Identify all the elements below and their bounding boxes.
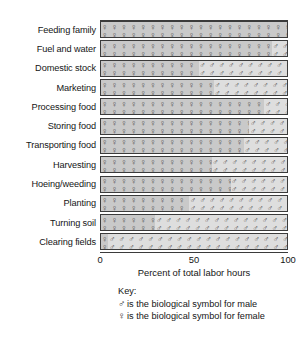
x-tick-label: 0 [97, 254, 102, 266]
bar-row-label: Domestic stock [0, 63, 100, 73]
female-symbol-icon: ♀ ♀ ♀ ♀ ♀ ♀ ♀ ♀ ♀ ♀ ♀ [102, 204, 192, 211]
chart-key: Key: ♂is the biological symbol for male … [118, 285, 308, 323]
bar-row: Transporting food♀ ♀ ♀ ♀ ♀ ♀ ♀ ♀ ♀ ♀ ♀ ♀… [0, 136, 308, 155]
stacked-bar: ♀ ♀ ♀ ♀ ♀ ♀ ♀ ♀ ♀ ♀ ♀♀ ♀ ♀ ♀ ♀ ♀ ♀ ♀ ♀ ♀… [100, 195, 288, 212]
bar-segment-male: ♂ ♂ ♂ ♂ ♂ ♂ ♂ ♂ ♂ ♂ ♂ ♂ ♂ ♂ ♂ ♂ ♂ ♂ ♂ ♂ … [108, 234, 287, 249]
bar-segment-female: ♀ ♀ ♀ ♀ ♀ ♀ ♀♀ ♀ ♀ ♀ ♀ ♀ ♀ [101, 215, 157, 230]
x-axis-ticks: 050100 [100, 254, 288, 268]
bar-segment-female: ♀ ♀ ♀ ♀ ♀ ♀ ♀ ♀ ♀ ♀ ♀ ♀ ♀ ♀ ♀ ♀ ♀ ♀ ♀♀ ♀… [101, 119, 251, 134]
stacked-bar: ♀ ♀ ♀ ♀ ♀ ♀ ♀ ♀ ♀ ♀ ♀ ♀ ♀ ♀ ♀ ♀ ♀ ♀ ♀ ♀ … [100, 21, 288, 38]
stacked-bar: ♀ ♀ ♀ ♀ ♀ ♀ ♀ ♀ ♀ ♀ ♀ ♀ ♀ ♀ ♀ ♀ ♀ ♀ ♀ ♀ … [100, 40, 288, 57]
bar-segment-male: ♂ ♂ ♂ ♂ ♂ ♂ ♂♂ ♂ ♂ ♂ ♂ ♂ ♂ [231, 177, 287, 192]
bar-segment-female: ♀ ♀ ♀ ♀ ♀ ♀ ♀ ♀ ♀ ♀ ♀ ♀♀ ♀ ♀ ♀ ♀ ♀ ♀ ♀ ♀… [101, 61, 201, 76]
plot-area: Feeding family♀ ♀ ♀ ♀ ♀ ♀ ♀ ♀ ♀ ♀ ♀ ♀ ♀ … [0, 0, 308, 272]
bar-row-label: Hoeing/weeding [0, 179, 100, 189]
bar-row: Clearing fields♀♀♂ ♂ ♂ ♂ ♂ ♂ ♂ ♂ ♂ ♂ ♂ ♂… [0, 232, 308, 251]
female-symbol-icon: ♀ ♀ ♀ ♀ ♀ ♀ ♀ ♀ ♀ ♀ ♀ ♀ ♀ ♀ [102, 166, 214, 173]
stacked-bar: ♀♀♂ ♂ ♂ ♂ ♂ ♂ ♂ ♂ ♂ ♂ ♂ ♂ ♂ ♂ ♂ ♂ ♂ ♂ ♂ … [100, 233, 288, 250]
male-symbol-icon: ♂ [118, 298, 127, 310]
key-line-female: ♀is the biological symbol for female [118, 310, 308, 322]
bar-segment-male: ♂ ♂ ♂ ♂ ♂ ♂ ♂ ♂ ♂ ♂ ♂ ♂♂ ♂ ♂ ♂ ♂ ♂ ♂ ♂ ♂… [189, 196, 287, 211]
bar-row: Processing food♀ ♀ ♀ ♀ ♀ ♀ ♀ ♀ ♀ ♀ ♀ ♀ ♀… [0, 97, 308, 116]
bar-row-label: Transporting food [0, 140, 100, 150]
male-symbol-icon: ♂ ♂ ♂ ♂ ♂ ♂ ♂ [231, 185, 287, 192]
bar-row-label: Planting [0, 198, 100, 208]
male-symbol-icon: ♂ ♂ ♂ ♂ ♂ [244, 146, 287, 153]
bar-row-label: Fuel and water [0, 44, 100, 54]
female-symbol-icon: ♀ ♀ ♀ ♀ ♀ ♀ ♀ ♀ ♀ ♀ ♀ ♀ ♀ ♀ ♀ ♀ ♀ ♀ ♀ ♀ … [102, 31, 289, 38]
female-symbol-icon: ♀ ♀ ♀ ♀ ♀ ♀ ♀ ♀ ♀ ♀ ♀ ♀ ♀ ♀ ♀ ♀ [102, 185, 233, 192]
bar-row: Feeding family♀ ♀ ♀ ♀ ♀ ♀ ♀ ♀ ♀ ♀ ♀ ♀ ♀ … [0, 20, 308, 39]
female-symbol-icon: ♀ ♀ ♀ ♀ ♀ ♀ ♀ ♀ ♀ ♀ ♀ ♀ ♀ ♀ ♀ ♀ ♀ ♀ ♀ ♀ … [102, 50, 274, 57]
bar-segment-male: ♂ ♂♂ ♂ [272, 41, 287, 56]
bar-segment-male: ♂ ♂ ♂ ♂ ♂ ♂ ♂ ♂ ♂♂ ♂ ♂ ♂ ♂ ♂ ♂ ♂ ♂ [212, 157, 287, 172]
male-symbol-icon: ♂ ♂ [272, 50, 287, 57]
bar-row-label: Harvesting [0, 160, 100, 170]
female-symbol-icon: ♀ ♀ ♀ ♀ ♀ ♀ ♀ ♀ ♀ ♀ ♀ ♀ [102, 69, 201, 76]
bar-segment-female: ♀ ♀ ♀ ♀ ♀ ♀ ♀ ♀ ♀ ♀ ♀ ♀ ♀ ♀ ♀ ♀ ♀ ♀ ♀ ♀ … [101, 99, 266, 114]
bar-row: Fuel and water♀ ♀ ♀ ♀ ♀ ♀ ♀ ♀ ♀ ♀ ♀ ♀ ♀ … [0, 39, 308, 58]
bar-rows: Feeding family♀ ♀ ♀ ♀ ♀ ♀ ♀ ♀ ♀ ♀ ♀ ♀ ♀ … [0, 20, 308, 252]
bar-segment-male: ♂ ♂ ♂ ♂ ♂ ♂ ♂ ♂ ♂ ♂ ♂ ♂ ♂ ♂ ♂ ♂♂ ♂ ♂ ♂ ♂… [155, 215, 287, 230]
bar-segment-female: ♀ ♀ ♀ ♀ ♀ ♀ ♀ ♀ ♀ ♀ ♀ ♀ ♀ ♀♀ ♀ ♀ ♀ ♀ ♀ ♀… [101, 80, 216, 95]
female-symbol-icon: ♀ ♀ ♀ ♀ ♀ ♀ ♀ [102, 224, 158, 231]
bar-row-label: Clearing fields [0, 237, 100, 247]
male-symbol-icon: ♂ ♂ ♂ ♂ ♂ [250, 127, 287, 134]
female-symbol-icon: ♀ ♀ ♀ ♀ ♀ ♀ ♀ ♀ ♀ ♀ ♀ ♀ ♀ ♀ ♀ ♀ ♀ ♀ ♀ ♀ … [102, 108, 267, 115]
stacked-bar: ♀ ♀ ♀ ♀ ♀ ♀ ♀ ♀ ♀ ♀ ♀ ♀ ♀ ♀ ♀ ♀♀ ♀ ♀ ♀ ♀… [100, 176, 288, 193]
bar-segment-male: ♂ ♂ ♂ ♂ ♂ ♂ ♂ ♂ ♂ ♂ ♂♂ ♂ ♂ ♂ ♂ ♂ ♂ ♂ ♂ ♂… [199, 61, 287, 76]
female-symbol-icon: ♀ ♀ ♀ ♀ ♀ ♀ ♀ ♀ ♀ ♀ ♀ ♀ ♀ ♀ ♀ ♀ ♀ ♀ [102, 146, 246, 153]
bar-row-label: Marketing [0, 83, 100, 93]
female-symbol-icon: ♀ [118, 310, 127, 322]
bar-row-label: Feeding family [0, 25, 100, 35]
bar-segment-female: ♀ ♀ ♀ ♀ ♀ ♀ ♀ ♀ ♀ ♀ ♀ ♀ ♀ ♀♀ ♀ ♀ ♀ ♀ ♀ ♀… [101, 157, 214, 172]
bar-row: Marketing♀ ♀ ♀ ♀ ♀ ♀ ♀ ♀ ♀ ♀ ♀ ♀ ♀ ♀♀ ♀ … [0, 78, 308, 97]
bar-segment-female: ♀ ♀ ♀ ♀ ♀ ♀ ♀ ♀ ♀ ♀ ♀ ♀ ♀ ♀ ♀ ♀ ♀ ♀♀ ♀ ♀… [101, 138, 246, 153]
x-tick-label: 50 [189, 254, 199, 266]
stacked-bar: ♀ ♀ ♀ ♀ ♀ ♀ ♀♀ ♀ ♀ ♀ ♀ ♀ ♀♂ ♂ ♂ ♂ ♂ ♂ ♂ … [100, 214, 288, 231]
bar-segment-female: ♀ ♀ ♀ ♀ ♀ ♀ ♀ ♀ ♀ ♀ ♀♀ ♀ ♀ ♀ ♀ ♀ ♀ ♀ ♀ ♀… [101, 196, 191, 211]
stacked-bar: ♀ ♀ ♀ ♀ ♀ ♀ ♀ ♀ ♀ ♀ ♀ ♀♀ ♀ ♀ ♀ ♀ ♀ ♀ ♀ ♀… [100, 60, 288, 77]
stacked-bar: ♀ ♀ ♀ ♀ ♀ ♀ ♀ ♀ ♀ ♀ ♀ ♀ ♀ ♀♀ ♀ ♀ ♀ ♀ ♀ ♀… [100, 156, 288, 173]
bar-row-label: Storing food [0, 121, 100, 131]
bar-row: Storing food♀ ♀ ♀ ♀ ♀ ♀ ♀ ♀ ♀ ♀ ♀ ♀ ♀ ♀ … [0, 116, 308, 135]
male-symbol-icon: ♂ ♂ ♂ [265, 108, 287, 115]
bar-row: Harvesting♀ ♀ ♀ ♀ ♀ ♀ ♀ ♀ ♀ ♀ ♀ ♀ ♀ ♀♀ ♀… [0, 155, 308, 174]
stacked-bar: ♀ ♀ ♀ ♀ ♀ ♀ ♀ ♀ ♀ ♀ ♀ ♀ ♀ ♀ ♀ ♀ ♀ ♀ ♀♀ ♀… [100, 118, 288, 135]
male-symbol-icon: ♂ ♂ ♂ ♂ ♂ ♂ ♂ ♂ ♂ ♂ ♂ ♂ ♂ ♂ ♂ ♂ ♂ ♂ ♂ ♂ … [109, 243, 287, 250]
stacked-bar: ♀ ♀ ♀ ♀ ♀ ♀ ♀ ♀ ♀ ♀ ♀ ♀ ♀ ♀ ♀ ♀ ♀ ♀ ♀ ♀ … [100, 98, 288, 115]
bar-row: Domestic stock♀ ♀ ♀ ♀ ♀ ♀ ♀ ♀ ♀ ♀ ♀ ♀♀ ♀… [0, 59, 308, 78]
bar-row: Planting♀ ♀ ♀ ♀ ♀ ♀ ♀ ♀ ♀ ♀ ♀♀ ♀ ♀ ♀ ♀ ♀… [0, 194, 308, 213]
male-symbol-icon: ♂ ♂ ♂ ♂ ♂ ♂ ♂ ♂ ♂ ♂ ♂ ♂ [190, 204, 287, 211]
stacked-bar: ♀ ♀ ♀ ♀ ♀ ♀ ♀ ♀ ♀ ♀ ♀ ♀ ♀ ♀ ♀ ♀ ♀ ♀♀ ♀ ♀… [100, 137, 288, 154]
bar-segment-female: ♀ ♀ ♀ ♀ ♀ ♀ ♀ ♀ ♀ ♀ ♀ ♀ ♀ ♀ ♀ ♀ ♀ ♀ ♀ ♀ … [101, 41, 274, 56]
labor-hours-chart: Feeding family♀ ♀ ♀ ♀ ♀ ♀ ♀ ♀ ♀ ♀ ♀ ♀ ♀ … [0, 0, 308, 350]
bar-row-label: Processing food [0, 102, 100, 112]
bar-segment-female: ♀ ♀ ♀ ♀ ♀ ♀ ♀ ♀ ♀ ♀ ♀ ♀ ♀ ♀ ♀ ♀♀ ♀ ♀ ♀ ♀… [101, 177, 233, 192]
bar-row-label: Turning soil [0, 218, 100, 228]
male-symbol-icon: ♂ ♂ ♂ ♂ ♂ ♂ ♂ ♂ ♂ ♂ ♂ [199, 69, 287, 76]
bar-segment-male: ♂ ♂ ♂ ♂ ♂♂ ♂ ♂ ♂ ♂ [249, 119, 287, 134]
male-symbol-icon: ♂ ♂ ♂ ♂ ♂ ♂ ♂ ♂ ♂ [214, 89, 287, 96]
stacked-bar: ♀ ♀ ♀ ♀ ♀ ♀ ♀ ♀ ♀ ♀ ♀ ♀ ♀ ♀♀ ♀ ♀ ♀ ♀ ♀ ♀… [100, 79, 288, 96]
x-axis-label: Percent of total labor hours [100, 267, 288, 278]
bar-row: Hoeing/weeding♀ ♀ ♀ ♀ ♀ ♀ ♀ ♀ ♀ ♀ ♀ ♀ ♀ … [0, 174, 308, 193]
male-symbol-icon: ♂ ♂ ♂ ♂ ♂ ♂ ♂ ♂ ♂ ♂ ♂ ♂ ♂ ♂ ♂ ♂ [156, 224, 287, 231]
female-symbol-icon: ♀ ♀ ♀ ♀ ♀ ♀ ♀ ♀ ♀ ♀ ♀ ♀ ♀ ♀ [102, 89, 216, 96]
axis-bottom-line [100, 252, 288, 253]
x-tick-label: 100 [280, 254, 296, 266]
key-male-text: is the biological symbol for male [127, 299, 257, 309]
bar-segment-male: ♂ ♂ ♂ ♂ ♂ ♂ ♂ ♂ ♂♂ ♂ ♂ ♂ ♂ ♂ ♂ ♂ ♂ [214, 80, 287, 95]
bar-segment-female: ♀ ♀ ♀ ♀ ♀ ♀ ♀ ♀ ♀ ♀ ♀ ♀ ♀ ♀ ♀ ♀ ♀ ♀ ♀ ♀ … [101, 22, 288, 37]
bar-segment-male: ♂ ♂ ♂♂ ♂ ♂ [264, 99, 287, 114]
female-symbol-icon: ♀ ♀ ♀ ♀ ♀ ♀ ♀ ♀ ♀ ♀ ♀ ♀ ♀ ♀ ♀ ♀ ♀ ♀ ♀ [102, 127, 252, 134]
key-female-text: is the biological symbol for female [127, 311, 265, 321]
bar-segment-male: ♂ ♂ ♂ ♂ ♂♂ ♂ ♂ ♂ ♂ [244, 138, 287, 153]
key-line-male: ♂is the biological symbol for male [118, 298, 308, 310]
key-title: Key: [118, 285, 308, 297]
bar-row: Turning soil♀ ♀ ♀ ♀ ♀ ♀ ♀♀ ♀ ♀ ♀ ♀ ♀ ♀♂ … [0, 213, 308, 232]
male-symbol-icon: ♂ ♂ ♂ ♂ ♂ ♂ ♂ ♂ ♂ [212, 166, 287, 173]
